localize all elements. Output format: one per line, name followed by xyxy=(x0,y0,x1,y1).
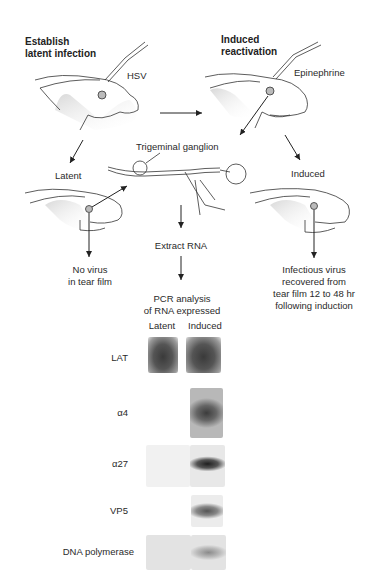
blot-row-label-dna-polymerase: DNA polymerase xyxy=(63,546,134,558)
rabbit-infection xyxy=(35,75,138,130)
text-line: tear film 12 to 48 hr xyxy=(273,288,355,300)
label-pcr-analysis: PCR analysis of RNA expressed xyxy=(144,293,221,317)
rabbit-latent xyxy=(25,189,122,230)
blot-band-a4-induced xyxy=(190,388,223,438)
label-hsv: HSV xyxy=(127,70,147,82)
blot-lane-dnapol-latent xyxy=(146,535,191,570)
blot-row-label-vp5: VP5 xyxy=(110,505,128,517)
text-line: PCR analysis xyxy=(144,293,221,305)
blot-band-dnapol-induced xyxy=(191,535,226,570)
trigeminal-nerve xyxy=(108,153,246,215)
text-line: Infectious virus xyxy=(273,264,355,276)
label-infectious-virus: Infectious virus recovered from tear fil… xyxy=(273,264,355,312)
label-no-virus: No virus in tear film xyxy=(68,264,112,288)
heading-line: Establish xyxy=(25,36,96,48)
heading-induced-reactivation: Induced reactivation xyxy=(221,34,277,58)
text-line: No virus xyxy=(68,264,112,276)
blot-lane-a27-latent xyxy=(146,445,190,487)
text-line: recovered from xyxy=(273,276,355,288)
text-line: in tear film xyxy=(68,276,112,288)
heading-line: reactivation xyxy=(221,46,277,58)
label-extract-rna: Extract RNA xyxy=(155,240,207,252)
blot-band-vp5-induced xyxy=(191,495,223,527)
blot-row-label-a4: α4 xyxy=(117,407,128,419)
rabbit-induced xyxy=(250,189,349,233)
label-epinephrine: Epinephrine xyxy=(294,67,345,79)
label-trigeminal-ganglion: Trigeminal ganglion xyxy=(136,141,219,153)
text-line: following induction xyxy=(273,300,355,312)
text-line: of RNA expressed xyxy=(144,305,221,317)
blot-column-latent: Latent xyxy=(149,320,175,332)
blot-row-label-a27: α27 xyxy=(112,458,128,470)
heading-line: latent infection xyxy=(25,48,96,60)
blot-band-a27-induced xyxy=(190,445,225,487)
heading-establish-latent: Establish latent infection xyxy=(25,36,96,60)
rabbit-reactivation xyxy=(205,74,308,128)
blot-row-label-lat: LAT xyxy=(111,352,128,364)
blot-column-induced: Induced xyxy=(188,320,222,332)
label-latent: Latent xyxy=(55,170,81,182)
heading-line: Induced xyxy=(221,34,277,46)
label-induced: Induced xyxy=(291,168,325,180)
blot-band-lat-induced xyxy=(186,337,221,373)
blot-band-lat-latent xyxy=(148,337,178,373)
